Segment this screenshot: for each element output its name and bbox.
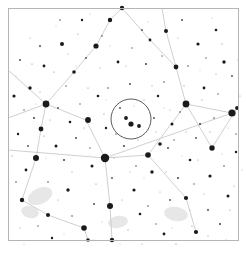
star-marker: [97, 95, 100, 98]
star-marker: [81, 19, 83, 21]
star-marker: [153, 117, 155, 119]
star-marker: [143, 99, 144, 100]
star-marker: [163, 233, 166, 236]
star-marker: [103, 113, 104, 114]
star-marker: [209, 131, 210, 132]
star-marker: [200, 70, 201, 71]
star-marker: [51, 237, 53, 239]
star-marker: [175, 243, 176, 244]
star-marker: [124, 116, 128, 120]
star-marker: [227, 195, 230, 198]
star-marker: [57, 107, 59, 109]
star-marker: [27, 145, 29, 147]
star-marker: [147, 205, 149, 207]
star-marker: [167, 147, 169, 149]
star-marker: [165, 171, 166, 172]
star-marker: [23, 109, 24, 110]
star-marker: [95, 183, 96, 184]
star-marker: [31, 63, 32, 64]
star-marker: [30, 38, 31, 39]
star-marker: [46, 213, 50, 217]
star-marker: [64, 234, 65, 235]
star-marker: [228, 109, 235, 116]
star-marker: [217, 93, 218, 94]
star-marker: [137, 124, 141, 128]
star-marker: [122, 200, 123, 201]
star-marker: [170, 110, 171, 111]
star-marker: [212, 18, 213, 19]
star-marker: [201, 99, 202, 100]
star-marker: [203, 87, 206, 90]
star-marker: [120, 244, 121, 245]
star-marker: [24, 244, 25, 245]
star-marker: [117, 61, 120, 64]
star-marker: [145, 63, 147, 65]
star-marker: [183, 101, 190, 108]
star-marker: [91, 165, 94, 168]
star-marker: [158, 142, 162, 146]
star-marker: [208, 236, 209, 237]
star-marker: [19, 59, 21, 61]
star-marker: [152, 86, 153, 87]
star-marker: [11, 155, 12, 156]
star-marker: [198, 160, 199, 161]
star-marker: [106, 100, 107, 101]
star-marker: [46, 158, 47, 159]
star-marker: [141, 29, 143, 31]
star-marker: [207, 209, 209, 211]
star-marker: [130, 172, 131, 173]
star-marker: [68, 54, 69, 55]
star-marker: [209, 145, 214, 150]
star-marker: [190, 210, 191, 211]
star-marker: [221, 43, 222, 44]
star-marker: [53, 71, 54, 72]
star-marker: [20, 228, 21, 229]
star-marker: [222, 154, 223, 155]
star-marker: [101, 154, 109, 162]
star-marker: [137, 139, 138, 140]
star-marker: [169, 199, 171, 201]
star-marker: [142, 244, 143, 245]
star-marker: [215, 29, 218, 32]
star-marker: [107, 87, 109, 89]
star-marker: [110, 46, 111, 47]
star-marker: [77, 33, 78, 34]
star-marker: [242, 170, 243, 171]
sky-chart-canvas: [0, 0, 246, 254]
star-marker: [40, 92, 41, 93]
star-marker: [144, 178, 145, 179]
star-marker: [191, 225, 192, 226]
star-marker: [183, 85, 184, 86]
star-marker: [69, 121, 72, 124]
star-marker: [16, 76, 17, 77]
star-marker: [85, 117, 91, 123]
star-marker: [128, 121, 133, 126]
star-marker: [156, 132, 157, 133]
star-marker: [131, 47, 132, 48]
star-marker: [235, 151, 237, 153]
star-marker: [150, 170, 153, 173]
star-marker: [115, 133, 116, 134]
star-marker: [155, 223, 156, 224]
star-marker: [189, 159, 192, 162]
star-marker: [75, 137, 77, 139]
star-marker: [71, 215, 73, 217]
star-marker: [81, 225, 87, 231]
star-marker: [132, 188, 135, 191]
star-marker: [234, 186, 235, 187]
star-marker: [216, 74, 217, 75]
star-marker: [177, 177, 179, 179]
star-marker: [160, 192, 161, 193]
star-marker: [47, 181, 49, 183]
star-marker: [33, 155, 39, 161]
star-marker: [36, 104, 37, 105]
star-marker: [231, 75, 233, 77]
star-marker: [55, 145, 58, 148]
star-marker: [195, 137, 197, 139]
star-marker: [171, 123, 174, 126]
star-marker: [240, 96, 241, 97]
star-marker: [102, 222, 103, 223]
star-marker: [93, 203, 95, 205]
star-marker: [149, 39, 152, 42]
star-marker: [43, 101, 50, 108]
